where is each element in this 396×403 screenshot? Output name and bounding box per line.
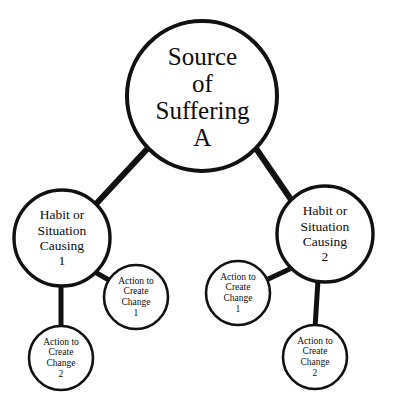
node-circle-habit-2[interactable] xyxy=(277,186,373,282)
diagram-canvas: Source of Suffering A Habit or Situation… xyxy=(0,0,396,403)
node-circle-group xyxy=(14,21,373,390)
diagram-graphics xyxy=(0,0,396,403)
node-circle-action-2b[interactable] xyxy=(283,325,347,389)
edge-habit-2-to-action-2b xyxy=(315,280,318,328)
node-circle-action-2a[interactable] xyxy=(29,326,93,390)
node-circle-habit-1[interactable] xyxy=(14,190,110,286)
node-circle-action-1a[interactable] xyxy=(104,265,168,329)
edge-root-to-habit-1 xyxy=(96,148,148,204)
edge-habit-2-to-action-1b xyxy=(264,267,294,281)
edge-root-to-habit-2 xyxy=(255,147,292,201)
node-circle-root[interactable] xyxy=(127,21,277,171)
node-circle-action-1b[interactable] xyxy=(206,261,270,325)
